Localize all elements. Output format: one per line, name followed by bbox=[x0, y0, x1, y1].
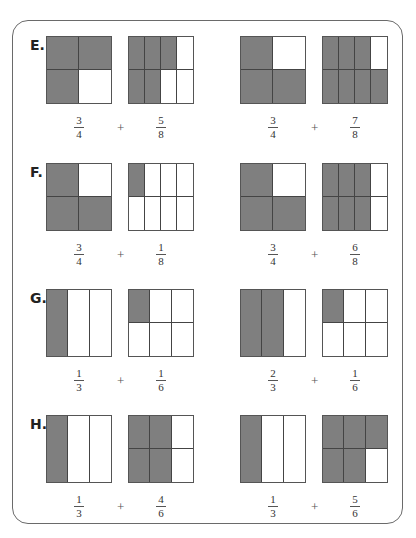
empty-cell bbox=[366, 449, 387, 482]
plus-sign: + bbox=[117, 499, 124, 515]
empty-cell bbox=[177, 197, 193, 230]
denominator: 4 bbox=[67, 255, 91, 267]
fraction-label: 13 bbox=[67, 368, 91, 393]
empty-cell bbox=[68, 416, 89, 482]
plus-sign: + bbox=[117, 373, 124, 389]
fraction-model bbox=[46, 415, 112, 483]
fraction-label: 13 bbox=[261, 494, 285, 519]
shaded-cell bbox=[241, 37, 273, 70]
shaded-cell bbox=[129, 70, 145, 103]
empty-cell bbox=[129, 323, 150, 356]
shaded-cell bbox=[323, 197, 339, 230]
denominator: 4 bbox=[261, 128, 285, 140]
fraction-model bbox=[240, 289, 306, 357]
empty-cell bbox=[145, 164, 161, 197]
empty-cell bbox=[161, 164, 177, 197]
plus-sign: + bbox=[311, 247, 318, 263]
shaded-cell bbox=[129, 164, 145, 197]
empty-cell bbox=[161, 197, 177, 230]
empty-cell bbox=[366, 290, 387, 323]
empty-cell bbox=[172, 290, 193, 323]
denominator: 6 bbox=[343, 507, 367, 519]
shaded-cell bbox=[129, 449, 150, 482]
shaded-cell bbox=[47, 197, 79, 230]
numerator: 6 bbox=[350, 242, 360, 255]
empty-cell bbox=[371, 164, 387, 197]
empty-cell bbox=[371, 197, 387, 230]
empty-cell bbox=[273, 37, 305, 70]
shaded-cell bbox=[355, 164, 371, 197]
shaded-cell bbox=[323, 449, 344, 482]
shaded-cell bbox=[339, 37, 355, 70]
numerator: 3 bbox=[74, 242, 84, 255]
numerator: 1 bbox=[74, 368, 84, 381]
empty-cell bbox=[262, 416, 283, 482]
fraction-label: 23 bbox=[261, 368, 285, 393]
empty-cell bbox=[150, 323, 171, 356]
fraction-model bbox=[46, 36, 112, 104]
empty-cell bbox=[344, 290, 365, 323]
shaded-cell bbox=[366, 416, 387, 449]
problem-label: G. bbox=[30, 290, 47, 306]
shaded-cell bbox=[344, 449, 365, 482]
empty-cell bbox=[177, 70, 193, 103]
denominator: 8 bbox=[343, 255, 367, 267]
shaded-cell bbox=[273, 70, 305, 103]
shaded-cell bbox=[241, 164, 273, 197]
fraction-model bbox=[46, 163, 112, 231]
shaded-cell bbox=[47, 70, 79, 103]
shaded-cell bbox=[161, 37, 177, 70]
plus-sign: + bbox=[311, 373, 318, 389]
fraction-model bbox=[240, 36, 306, 104]
shaded-cell bbox=[47, 416, 68, 482]
fraction-label: 68 bbox=[343, 242, 367, 267]
shaded-cell bbox=[241, 197, 273, 230]
fraction-label: 16 bbox=[149, 368, 173, 393]
plus-sign: + bbox=[311, 499, 318, 515]
fraction-label: 34 bbox=[67, 115, 91, 140]
plus-sign: + bbox=[117, 247, 124, 263]
shaded-cell bbox=[273, 197, 305, 230]
problem-label: F. bbox=[30, 164, 43, 180]
empty-cell bbox=[90, 416, 111, 482]
empty-cell bbox=[172, 449, 193, 482]
shaded-cell bbox=[371, 70, 387, 103]
numerator: 3 bbox=[268, 115, 278, 128]
shaded-cell bbox=[323, 290, 344, 323]
shaded-cell bbox=[339, 197, 355, 230]
problem-label: E. bbox=[30, 37, 45, 53]
shaded-cell bbox=[355, 70, 371, 103]
denominator: 8 bbox=[343, 128, 367, 140]
shaded-cell bbox=[47, 290, 68, 356]
shaded-cell bbox=[344, 416, 365, 449]
shaded-cell bbox=[339, 164, 355, 197]
fraction-model bbox=[322, 415, 388, 483]
fraction-label: 46 bbox=[149, 494, 173, 519]
empty-cell bbox=[366, 323, 387, 356]
shaded-cell bbox=[145, 70, 161, 103]
empty-cell bbox=[161, 70, 177, 103]
shaded-cell bbox=[150, 416, 171, 449]
empty-cell bbox=[79, 164, 111, 197]
shaded-cell bbox=[241, 70, 273, 103]
shaded-cell bbox=[129, 416, 150, 449]
fraction-model bbox=[322, 36, 388, 104]
shaded-cell bbox=[47, 164, 79, 197]
fraction-model bbox=[322, 163, 388, 231]
denominator: 3 bbox=[261, 507, 285, 519]
denominator: 8 bbox=[149, 255, 173, 267]
shaded-cell bbox=[355, 37, 371, 70]
numerator: 1 bbox=[74, 494, 84, 507]
fraction-label: 58 bbox=[149, 115, 173, 140]
empty-cell bbox=[284, 290, 305, 356]
empty-cell bbox=[323, 323, 344, 356]
problem-label: H. bbox=[30, 416, 47, 432]
numerator: 3 bbox=[74, 115, 84, 128]
empty-cell bbox=[344, 323, 365, 356]
empty-cell bbox=[177, 37, 193, 70]
shaded-cell bbox=[339, 70, 355, 103]
fraction-label: 13 bbox=[67, 494, 91, 519]
shaded-cell bbox=[129, 290, 150, 323]
fraction-label: 34 bbox=[261, 242, 285, 267]
shaded-cell bbox=[323, 37, 339, 70]
